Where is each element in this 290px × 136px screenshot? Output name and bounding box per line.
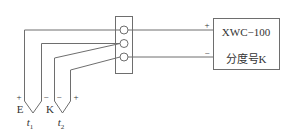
k-plus-label: + [73,92,78,102]
wire-e-plus [25,30,121,97]
k-minus-label: − [56,92,61,102]
instrument-model: XWC−100 [222,26,271,38]
terminal-1 [120,26,128,34]
terminal-block [116,17,133,74]
wire-e-minus [42,44,121,98]
e-minus-label: − [43,92,48,102]
wiring-diagram: XWC−100 分度号K + − + − E t1 − + K t2 [0,0,290,136]
e-plus-label: + [16,92,21,102]
thermocouple-e [25,97,42,113]
terminal-2 [120,40,128,48]
instrument-plus-label: + [204,20,209,30]
instrument-minus-label: − [204,48,209,58]
e-name-label: E [17,103,24,115]
wire-k-minus [55,44,121,98]
instrument-graduation: 分度号K [226,52,267,65]
terminal-3 [120,53,128,61]
k-name-label: K [46,103,54,115]
t1-label: t1 [27,116,34,131]
wire-k-plus [71,57,121,97]
t2-label: t2 [58,116,65,131]
